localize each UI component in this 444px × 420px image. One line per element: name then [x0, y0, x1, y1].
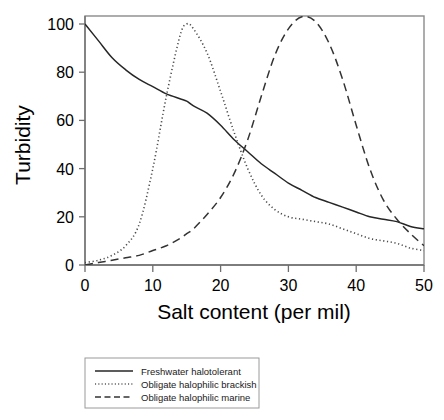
y-tick-label: 80	[56, 64, 74, 81]
legend-label: Obligate halophilic brackish	[141, 379, 257, 390]
chart-svg: 020406080100 01020304050 Salt content (p…	[0, 0, 444, 420]
y-tick-label: 100	[47, 16, 74, 33]
y-tick-label: 20	[56, 209, 74, 226]
x-tick-label: 0	[81, 277, 90, 294]
y-axis-ticks	[79, 24, 85, 265]
y-axis-tick-labels: 020406080100	[47, 16, 74, 274]
x-axis-tick-labels: 01020304050	[81, 277, 433, 294]
legend-label: Obligate halophilic marine	[141, 392, 250, 403]
series-line-dashed	[85, 16, 424, 265]
plot-frame	[85, 16, 424, 265]
x-tick-label: 10	[144, 277, 162, 294]
chart-legend: Freshwater halotolerantObligate halophil…	[85, 358, 259, 408]
legend-label: Freshwater halotolerant	[141, 366, 241, 377]
y-tick-label: 0	[65, 257, 74, 274]
x-axis-ticks	[85, 265, 424, 272]
x-tick-label: 50	[415, 277, 433, 294]
y-tick-label: 40	[56, 161, 74, 178]
x-axis-title: Salt content (per mil)	[157, 300, 351, 323]
x-tick-label: 40	[347, 277, 365, 294]
x-tick-label: 30	[280, 277, 298, 294]
y-axis-title: Turbidity	[11, 105, 34, 185]
series-line-solid	[85, 24, 424, 229]
series-line-dotted	[85, 24, 424, 263]
chart-figure: 020406080100 01020304050 Salt content (p…	[0, 0, 444, 420]
x-tick-label: 20	[212, 277, 230, 294]
chart-series-group	[85, 16, 424, 265]
y-tick-label: 60	[56, 112, 74, 129]
